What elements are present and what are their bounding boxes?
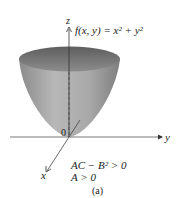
z-axis-label: z xyxy=(66,16,70,26)
function-label: f(x, y) = x² + y² xyxy=(75,25,143,36)
x-axis-label: x xyxy=(41,170,46,181)
condition-1: AC − B² > 0 xyxy=(71,160,126,171)
caption: (a) xyxy=(92,186,103,196)
y-axis-label: y xyxy=(165,132,170,143)
origin-label: 0 xyxy=(61,128,66,138)
condition-2: A > 0 xyxy=(71,172,96,183)
paraboloid-rim xyxy=(19,47,120,72)
y-arrow-icon xyxy=(158,135,163,140)
